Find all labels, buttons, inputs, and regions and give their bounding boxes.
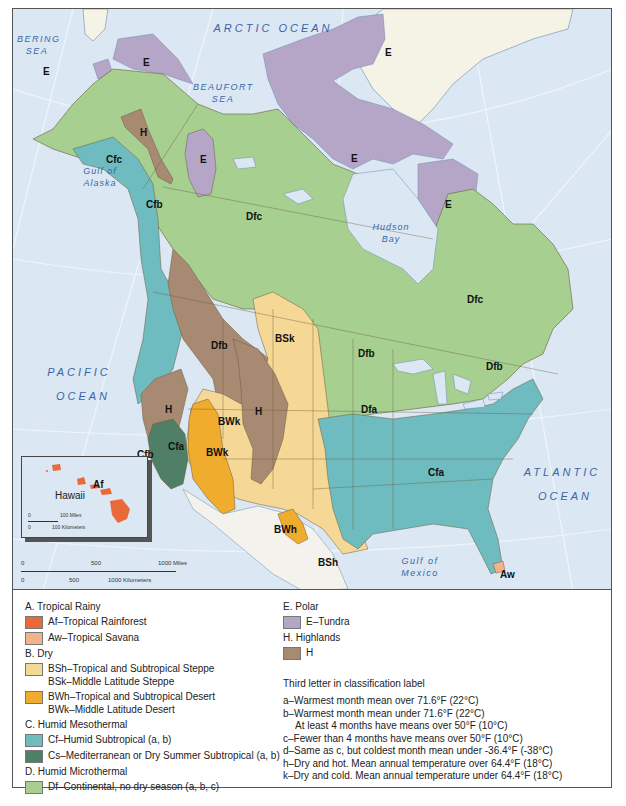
legend-item-text: Cs–Mediterranean or Dry Summer Subtropic… [48, 749, 280, 762]
legend-group-heading: H. Highlands [283, 631, 562, 644]
climate-label-cfa: Cfa [428, 467, 444, 478]
arctic-ocean-label: ARCTIC OCEAN [173, 21, 373, 35]
legend-swatch-aw [25, 632, 43, 645]
climate-label-h: H [140, 127, 147, 138]
climate-label-h: H [165, 404, 172, 415]
legend-item: BWh–Tropical and Subtropical DesertBWk–M… [25, 690, 280, 716]
third-letter-item: d–Same as c, but coldest month mean unde… [283, 745, 562, 758]
climate-label-cfa: Cfa [168, 441, 184, 452]
af-label: Af [93, 479, 104, 490]
hudson-bay-label: Hudson Bay [371, 221, 411, 245]
legend-swatch-e [283, 616, 301, 629]
climate-label-e: E [351, 153, 358, 164]
scale-line [21, 571, 176, 572]
inset-scale-km-zero: 0 [28, 524, 31, 530]
legend-swatch-h [283, 647, 301, 660]
inset-scale-miles: 100 Miles [60, 512, 81, 518]
legend-group-heading: A. Tropical Rainy [25, 600, 280, 613]
beaufort-sea-label: BEAUFORT SEA [193, 81, 253, 105]
legend-item-text: Af–Tropical Rainforest [48, 615, 147, 628]
scale-miles-mid: 500 [91, 560, 101, 566]
legend-swatch-bw [25, 691, 43, 704]
atlantic-ocean-label-1: ATLANTIC [517, 465, 607, 479]
third-letter-item: b–Warmest month mean under 71.6°F (22°C) [283, 708, 562, 721]
legend-group-heading: D. Humid Microthermal [25, 765, 280, 778]
third-letter-item: c–Fewer than 4 months have means over 50… [283, 733, 562, 746]
legend-item-text: BSh–Tropical and Subtropical Steppe [48, 662, 214, 675]
legend-group-heading: B. Dry [25, 647, 280, 660]
climate-label-h: H [255, 406, 262, 417]
climate-label-dfb: Dfb [358, 348, 375, 359]
legend-item-text: BWh–Tropical and Subtropical Desert [48, 690, 215, 703]
legend-item-text: H [306, 646, 313, 659]
scale-miles-zero: 0 [21, 560, 24, 566]
hawaii-label: Hawaii [55, 490, 85, 501]
climate-label-cfb: Cfb [146, 199, 163, 210]
climate-map: ARCTIC OCEAN BERING SEA BEAUFORT SEA Gul… [12, 8, 612, 590]
climate-label-dfa: Dfa [361, 404, 377, 415]
inset-scale-miles-zero: 0 [28, 512, 31, 518]
legend-item-text: BWk–Middle Latitude Desert [48, 703, 215, 716]
legend-swatch-af [25, 616, 43, 629]
climate-label-dfb: Dfb [211, 340, 228, 351]
map-legend: A. Tropical RainyAf–Tropical RainforestA… [12, 590, 612, 788]
gulf-of-alaska-label: Gulf of Alaska [75, 165, 125, 189]
pacific-ocean-label-1: PACIFIC [39, 365, 119, 379]
legend-swatch-df [25, 781, 43, 794]
atlantic-ocean-label-2: OCEAN [525, 489, 605, 503]
legend-item: Af–Tropical Rainforest [25, 615, 280, 629]
legend-column-right: E. PolarE–TundraH. HighlandsH Third lett… [283, 600, 562, 783]
climate-label-dfb: Dfb [486, 361, 503, 372]
third-letter-list: a–Warmest month mean over 71.6°F (22°C)b… [283, 695, 562, 783]
hawaii-inset: Hawaii Af 0 100 Miles 0 100 Kilometers [21, 456, 148, 538]
climate-label-dfc: Dfc [246, 211, 262, 222]
climate-label-e: E [200, 154, 207, 165]
climate-label-bwh: BWh [274, 524, 297, 535]
inset-scale-km: 100 Kilometers [52, 524, 85, 530]
bering-sea-label: BERING SEA [17, 33, 57, 57]
third-letter-title: Third letter in classification label [283, 678, 562, 689]
legend-column-left: A. Tropical RainyAf–Tropical RainforestA… [25, 600, 280, 796]
legend-item: Cf–Humid Subtropical (a, b) [25, 733, 280, 747]
scale-km-zero: 0 [21, 577, 24, 583]
legend-item: H [283, 646, 562, 660]
legend-item-text: BSk–Middle Latitude Steppe [48, 675, 214, 688]
pacific-ocean-label-2: OCEAN [43, 389, 123, 403]
third-letter-item: h–Dry and hot. Mean annual temperature o… [283, 758, 562, 771]
climate-label-bsk: BSk [275, 333, 294, 344]
legend-swatch-cs [25, 750, 43, 763]
legend-swatch-cf [25, 734, 43, 747]
climate-label-bwk: BWk [206, 447, 228, 458]
legend-item: E–Tundra [283, 615, 562, 629]
climate-label-bwk: BWk [218, 416, 240, 427]
climate-label-e: E [385, 47, 392, 58]
legend-group-heading: C. Humid Mesothermal [25, 718, 280, 731]
legend-item: Aw–Tropical Savana [25, 631, 280, 645]
third-letter-item: a–Warmest month mean over 71.6°F (22°C) [283, 695, 562, 708]
legend-item-text: E–Tundra [306, 615, 350, 628]
legend-item-text: Df–Continental, no dry season (a, b, c) [48, 780, 219, 793]
legend-item-text: Aw–Tropical Savana [48, 631, 139, 644]
scale-miles-end: 1000 Miles [158, 560, 187, 566]
legend-item: Cs–Mediterranean or Dry Summer Subtropic… [25, 749, 280, 763]
inset-scale-bar [28, 521, 58, 522]
legend-swatch-bs [25, 663, 43, 676]
gulf-of-mexico-label: Gulf of Mexico [395, 555, 445, 579]
third-letter-item: k–Dry and cold. Mean annual temperature … [283, 770, 562, 783]
scale-km-end: 1000 Kilometers [108, 577, 151, 583]
climate-label-bsh: BSh [318, 557, 338, 568]
mediterranean-cs-region [148, 419, 188, 489]
legend-item: Df–Continental, no dry season (a, b, c) [25, 780, 280, 794]
legend-item-text: Cf–Humid Subtropical (a, b) [48, 733, 171, 746]
legend-group-heading: E. Polar [283, 600, 562, 613]
climate-label-dfc: Dfc [467, 294, 483, 305]
legend-item: BSh–Tropical and Subtropical SteppeBSk–M… [25, 662, 280, 688]
climate-label-aw: Aw [500, 569, 515, 580]
climate-label-e: E [445, 199, 452, 210]
climate-label-cfc: Cfc [106, 154, 122, 165]
third-letter-item: At least 4 months have means over 50°F (… [283, 720, 562, 733]
climate-label-e: E [43, 66, 50, 77]
scale-km-mid: 500 [69, 577, 79, 583]
climate-label-e: E [143, 57, 150, 68]
